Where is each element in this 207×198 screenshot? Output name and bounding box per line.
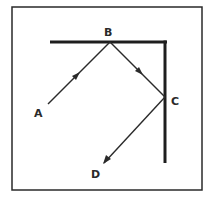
reflection-diagram: A B C D	[0, 0, 207, 198]
point-label-b: B	[104, 26, 112, 39]
point-label-a: A	[34, 107, 43, 120]
point-label-d: D	[91, 168, 100, 181]
segment-c-d	[104, 97, 165, 163]
point-label-c: C	[171, 95, 179, 108]
